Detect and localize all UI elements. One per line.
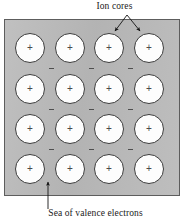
- positive-charge-symbol: +: [16, 34, 44, 62]
- ion-core: +: [55, 114, 85, 144]
- positive-charge-symbol: +: [135, 34, 163, 62]
- ion-core: +: [15, 33, 45, 63]
- ion-core: +: [15, 154, 45, 184]
- ion-core: +: [134, 114, 164, 144]
- positive-charge-symbol: +: [135, 155, 163, 183]
- positive-charge-symbol: +: [56, 155, 84, 183]
- valence-electron: [128, 149, 133, 150]
- ion-core: +: [55, 154, 85, 184]
- ion-core: +: [134, 33, 164, 63]
- ion-core: +: [94, 114, 124, 144]
- ion-core: +: [94, 74, 124, 104]
- positive-charge-symbol: +: [16, 75, 44, 103]
- ion-core: +: [15, 74, 45, 104]
- ion-core: +: [134, 154, 164, 184]
- electron-sea-label: Sea of valence electrons: [0, 208, 191, 218]
- ion-core: +: [55, 74, 85, 104]
- ion-core: +: [94, 154, 124, 184]
- positive-charge-symbol: +: [95, 115, 123, 143]
- valence-electron: [89, 109, 94, 110]
- ion-core: +: [134, 74, 164, 104]
- positive-charge-symbol: +: [95, 75, 123, 103]
- valence-electron: [49, 109, 54, 110]
- positive-charge-symbol: +: [56, 34, 84, 62]
- metal-block: ++++++++++++++++: [4, 19, 180, 196]
- valence-electron: [49, 149, 54, 150]
- positive-charge-symbol: +: [95, 155, 123, 183]
- ion-core: +: [15, 114, 45, 144]
- valence-electron: [49, 68, 54, 69]
- positive-charge-symbol: +: [135, 75, 163, 103]
- positive-charge-symbol: +: [16, 155, 44, 183]
- valence-electron: [128, 68, 133, 69]
- positive-charge-symbol: +: [95, 34, 123, 62]
- ion-core: +: [94, 33, 124, 63]
- metallic-bonding-figure: Ion cores ++++++++++++++++ Sea of valenc…: [0, 0, 191, 218]
- valence-electron: [89, 149, 94, 150]
- positive-charge-symbol: +: [135, 115, 163, 143]
- ion-core: +: [55, 33, 85, 63]
- ion-cores-label: Ion cores: [0, 1, 191, 12]
- positive-charge-symbol: +: [16, 115, 44, 143]
- positive-charge-symbol: +: [56, 115, 84, 143]
- valence-electron: [128, 109, 133, 110]
- positive-charge-symbol: +: [56, 75, 84, 103]
- valence-electron: [89, 68, 94, 69]
